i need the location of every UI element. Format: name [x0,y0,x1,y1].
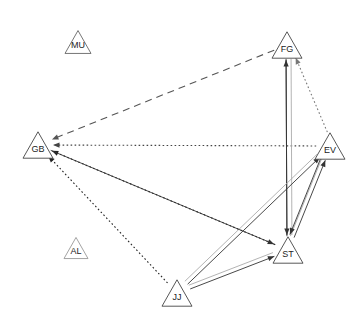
node-label-al: AL [70,246,81,256]
network-graph-svg: MUFGGBEVALSTJJ [0,0,359,318]
node-label-mu: MU [71,40,85,50]
edge-gb-to-st [51,150,274,244]
node-gb[interactable]: GB [23,132,53,158]
edge-fg-to-gb [52,50,274,139]
node-mu[interactable]: MU [65,31,91,54]
edge-ev-to-gb [53,145,316,146]
edge-jj-to-gb [48,156,167,283]
edge-jj-to-ev [188,157,320,284]
node-label-st: ST [282,249,294,259]
node-label-ev: EV [324,145,336,155]
arrowhead-jj-st [267,256,274,261]
edge-fg-to-st [291,59,292,235]
node-label-gb: GB [31,144,44,154]
arrowhead-fg-st [284,228,289,235]
node-label-fg: FG [281,44,294,54]
edge-jj-to-st [189,253,273,286]
node-al[interactable]: AL [64,237,88,258]
edge-ev-to-fg [296,58,328,133]
arrowhead-ev-fg [296,58,301,65]
arrowhead-fg-gb [52,135,59,140]
node-fg[interactable]: FG [272,32,302,58]
edge-ev-to-st [290,157,321,234]
edge-fg-to-st [286,59,287,235]
network-diagram: MUFGGBEVALSTJJ [0,0,359,318]
node-layer: MUFGGBEVALSTJJ [23,31,345,307]
edge-jj-to-st [190,256,274,289]
arrowhead-ev-gb [53,142,60,147]
node-label-jj: JJ [173,292,182,302]
arrowhead-gb-st [267,239,274,244]
arrowhead-st-ev [320,160,325,167]
node-ev[interactable]: EV [315,133,345,159]
node-st[interactable]: ST [273,237,303,263]
